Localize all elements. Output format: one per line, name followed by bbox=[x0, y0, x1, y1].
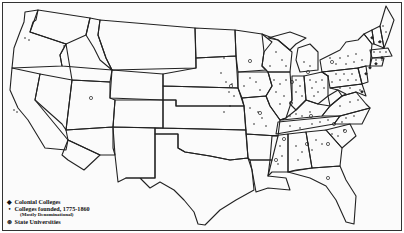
colonial-college-icon: ◆ bbox=[6, 198, 13, 205]
state-university-icon: ⊛ bbox=[6, 218, 13, 225]
map-legend: ◆ Colonial Colleges • Colleges founded, … bbox=[6, 198, 90, 225]
legend-colonial-colleges: ◆ Colonial Colleges bbox=[6, 198, 90, 205]
legend-denominational-colleges: • Colleges founded, 1775-1860 bbox=[6, 205, 90, 212]
state-boundaries bbox=[10, 6, 394, 225]
legend-label: Colonial Colleges bbox=[15, 198, 61, 205]
legend-state-universities: ⊛ State Universities bbox=[6, 218, 90, 225]
legend-label: Colleges founded, 1775-1860 bbox=[15, 205, 90, 212]
college-dots bbox=[13, 25, 387, 165]
college-dot-icon: • bbox=[6, 205, 13, 212]
legend-label: State Universities bbox=[15, 218, 61, 225]
